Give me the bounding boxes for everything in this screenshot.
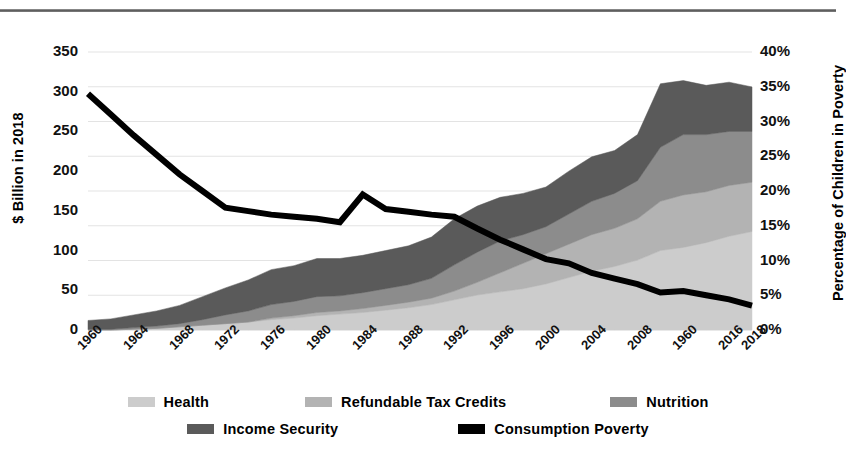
y-axis-left-tick: 250 bbox=[22, 121, 78, 138]
legend-swatch-icon bbox=[128, 397, 155, 407]
y-axis-left-tick: 100 bbox=[22, 241, 78, 258]
legend-label: Health bbox=[164, 394, 210, 410]
y-axis-left-tick: 50 bbox=[22, 280, 78, 297]
y-axis-right-tick: 20% bbox=[760, 181, 820, 198]
chart-legend: HealthRefundable Tax CreditsNutritionInc… bbox=[0, 388, 836, 442]
legend-item-refundable-tax-credits[interactable]: Refundable Tax Credits bbox=[305, 394, 506, 410]
legend-label: Refundable Tax Credits bbox=[341, 394, 506, 410]
y-axis-left-tick: 350 bbox=[22, 42, 78, 59]
y-axis-right-tick: 10% bbox=[760, 251, 820, 268]
y-axis-right-tick: 30% bbox=[760, 112, 820, 129]
y-axis-left-tick: 0 bbox=[22, 320, 78, 337]
y-axis-right-tick: 40% bbox=[760, 42, 820, 59]
legend-item-health[interactable]: Health bbox=[128, 394, 210, 410]
y-axis-left-tick: 200 bbox=[22, 161, 78, 178]
legend-item-income-security[interactable]: Income Security bbox=[187, 421, 338, 437]
legend-label: Nutrition bbox=[646, 394, 708, 410]
legend-item-nutrition[interactable]: Nutrition bbox=[610, 394, 708, 410]
legend-label: Consumption Poverty bbox=[494, 421, 648, 437]
legend-label: Income Security bbox=[223, 421, 338, 437]
y-axis-left-tick: 300 bbox=[22, 82, 78, 99]
y-axis-right-tick: 15% bbox=[760, 216, 820, 233]
legend-item-consumption-poverty[interactable]: Consumption Poverty bbox=[458, 421, 648, 437]
y-axis-left-tick: 150 bbox=[22, 201, 78, 218]
y-axis-right-tick: 25% bbox=[760, 146, 820, 163]
y-axis-right-tick: 35% bbox=[760, 77, 820, 94]
legend-row: HealthRefundable Tax CreditsNutrition bbox=[0, 388, 836, 415]
y-axis-right-tick: 5% bbox=[760, 285, 820, 302]
legend-swatch-icon bbox=[305, 397, 332, 407]
y-axis-right-title: Percentage of Children in Poverty bbox=[830, 33, 846, 333]
legend-swatch-icon bbox=[187, 424, 214, 434]
legend-row: Income SecurityConsumption Poverty bbox=[0, 415, 836, 442]
legend-swatch-icon bbox=[610, 397, 637, 407]
legend-swatch-icon bbox=[458, 424, 485, 434]
y-axis-right-tick: 0% bbox=[760, 320, 820, 337]
